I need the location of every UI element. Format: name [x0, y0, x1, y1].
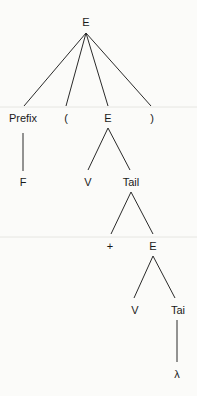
node-v2: V: [131, 304, 139, 316]
node-v: V: [84, 176, 92, 188]
edge-root-lparen: [66, 33, 86, 106]
node-tail2: Tai: [171, 304, 185, 316]
edge-root-rparen: [86, 33, 151, 106]
node-tail: Tail: [123, 176, 140, 188]
edge-e-tail2: [153, 256, 175, 298]
edge-tail-e: [131, 192, 153, 234]
edge-e-v: [88, 128, 108, 170]
node-e: E: [104, 112, 111, 124]
node-prefix: Prefix: [9, 112, 38, 124]
node-plus: +: [107, 240, 113, 252]
node-root-e: E: [82, 16, 89, 28]
edge-e-v2: [134, 256, 153, 298]
edge-tail-plus: [111, 192, 131, 234]
node-f: F: [20, 176, 27, 188]
edge-root-prefix: [24, 33, 86, 106]
parse-tree-diagram: E Prefix ( E ) F V Tail + E V Tai λ: [0, 0, 197, 396]
node-lparen: (: [64, 112, 68, 124]
edge-root-e: [86, 33, 108, 106]
tree-edges: [23, 33, 177, 362]
node-e2: E: [149, 240, 156, 252]
edge-e-tail: [108, 128, 130, 170]
node-lambda: λ: [174, 368, 180, 380]
node-rparen: ): [150, 112, 154, 124]
